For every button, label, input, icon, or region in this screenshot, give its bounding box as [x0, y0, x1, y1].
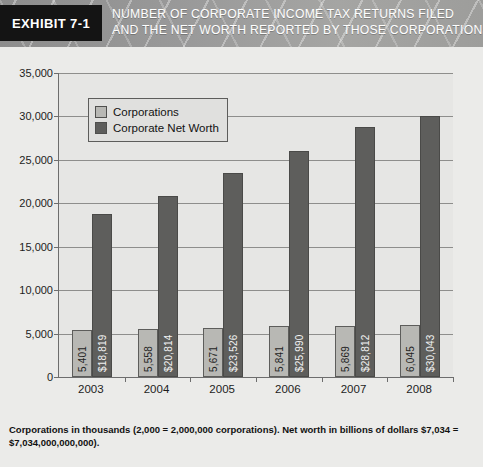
bar-2003-corporations: 5,401	[72, 330, 92, 377]
chart-legend: Corporations Corporate Net Worth	[88, 98, 228, 142]
y-axis-tick-label: 20,000	[1, 197, 53, 209]
bar-2006-net-worth: $25,990	[289, 151, 309, 377]
gridline	[59, 160, 453, 161]
legend-item-corporate-net-worth: Corporate Net Worth	[95, 120, 219, 136]
footnote-line-1: Corporations in thousands (2,000 = 2,000…	[9, 424, 461, 437]
exhibit-number-box: EXHIBIT 7-1	[0, 5, 102, 41]
exhibit-number-label: EXHIBIT 7-1	[12, 16, 90, 31]
exhibit-title-line-2: AND THE NET WORTH REPORTED BY THOSE CORP…	[112, 23, 472, 39]
bar-group: 5,841$25,990	[269, 73, 309, 377]
x-axis-tick	[125, 377, 126, 382]
exhibit-header-banner: EXHIBIT 7-1 NUMBER OF CORPORATE INCOME T…	[0, 0, 483, 47]
bar-2003-net-worth: $18,819	[92, 214, 112, 377]
x-axis-label-2007: 2007	[341, 383, 367, 395]
bar-2007-net-worth: $28,812	[355, 127, 375, 377]
bar-value-label: 6,045	[405, 346, 416, 372]
y-axis-tick-label: 0	[1, 371, 53, 383]
y-axis-tick-label: 30,000	[1, 110, 53, 122]
gridline	[59, 247, 453, 248]
bar-value-label: $18,819	[96, 334, 107, 372]
legend-swatch-corporations-icon	[95, 106, 107, 118]
x-axis-label-2006: 2006	[275, 383, 301, 395]
gridline	[59, 290, 453, 291]
bar-2007-corporations: 5,869	[335, 326, 355, 377]
bar-value-label: $30,043	[425, 334, 436, 372]
y-axis-tick	[54, 377, 59, 378]
bar-group: 6,045$30,043	[400, 73, 440, 377]
x-axis-tick	[453, 377, 454, 382]
bar-value-label: $25,990	[293, 334, 304, 372]
plot-area: 5,401$18,8195,558$20,8145,671$23,5265,84…	[58, 73, 453, 378]
gridline	[59, 203, 453, 204]
bar-value-label: $23,526	[228, 334, 239, 372]
x-axis-tick	[322, 377, 323, 382]
bar-2004-net-worth: $20,814	[158, 196, 178, 377]
y-axis-tick-label: 5,000	[1, 328, 53, 340]
y-axis-tick	[54, 334, 59, 335]
bar-value-label: 5,841	[273, 346, 284, 372]
y-axis-tick	[54, 73, 59, 74]
gridline	[59, 334, 453, 335]
bar-value-label: 5,869	[339, 346, 350, 372]
legend-label-corporate-net-worth: Corporate Net Worth	[113, 122, 219, 134]
y-axis-tick	[54, 290, 59, 291]
legend-swatch-net-worth-icon	[95, 122, 107, 134]
exhibit-title: NUMBER OF CORPORATE INCOME TAX RETURNS F…	[112, 7, 472, 38]
bar-value-label: 5,558	[142, 346, 153, 372]
bar-2006-corporations: 5,841	[269, 326, 289, 377]
bar-value-label: $28,812	[359, 334, 370, 372]
x-axis-tick	[387, 377, 388, 382]
x-axis-label-2004: 2004	[144, 383, 170, 395]
legend-item-corporations: Corporations	[95, 104, 219, 120]
chart-canvas: 05,00010,00015,00020,00025,00030,00035,0…	[0, 47, 483, 420]
gridline	[59, 73, 453, 74]
bar-value-label: 5,671	[208, 346, 219, 372]
bar-2005-net-worth: $23,526	[223, 173, 243, 377]
y-axis-tick	[54, 247, 59, 248]
x-axis-tick	[256, 377, 257, 382]
bar-2008-corporations: 6,045	[400, 325, 420, 378]
bar-value-label: 5,401	[76, 346, 87, 372]
y-axis-tick	[54, 203, 59, 204]
y-axis-tick-label: 25,000	[1, 154, 53, 166]
footnote-line-2: $7,034,000,000,000).	[9, 437, 461, 450]
x-axis-label-2003: 2003	[78, 383, 104, 395]
bar-2008-net-worth: $30,043	[420, 116, 440, 377]
exhibit-figure: EXHIBIT 7-1 NUMBER OF CORPORATE INCOME T…	[0, 0, 483, 467]
y-axis-tick-label: 10,000	[1, 284, 53, 296]
bar-2004-corporations: 5,558	[138, 329, 158, 377]
x-axis-label-2008: 2008	[406, 383, 432, 395]
y-axis-tick	[54, 116, 59, 117]
exhibit-title-line-1: NUMBER OF CORPORATE INCOME TAX RETURNS F…	[112, 7, 472, 23]
y-axis-tick-label: 35,000	[1, 67, 53, 79]
x-axis-tick	[190, 377, 191, 382]
bar-group: 5,869$28,812	[335, 73, 375, 377]
y-axis-labels: 05,00010,00015,00020,00025,00030,00035,0…	[0, 73, 53, 377]
y-axis-tick-label: 15,000	[1, 241, 53, 253]
x-axis-label-2005: 2005	[209, 383, 235, 395]
bar-2005-corporations: 5,671	[203, 328, 223, 377]
figure-footnote: Corporations in thousands (2,000 = 2,000…	[9, 424, 461, 449]
bar-value-label: $20,814	[162, 334, 173, 372]
y-axis-tick	[54, 160, 59, 161]
legend-label-corporations: Corporations	[113, 106, 179, 118]
